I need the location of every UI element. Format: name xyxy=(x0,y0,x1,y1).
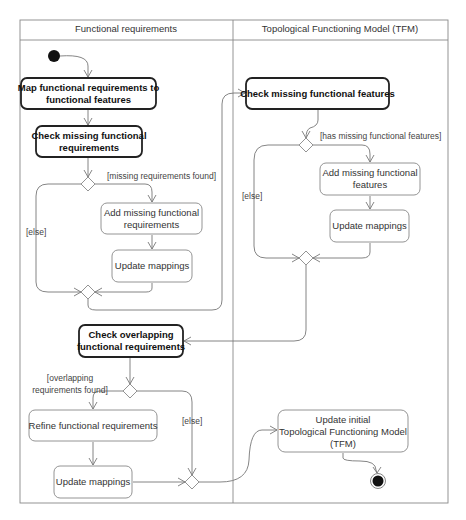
activity-final-node xyxy=(371,474,386,489)
action-add-missing-functional-features: Add missing functional features xyxy=(320,163,420,195)
svg-text:Add missing functional: Add missing functional xyxy=(104,207,199,218)
guard-else-3: [else] xyxy=(182,416,202,426)
svg-text:functional features: functional features xyxy=(46,94,131,105)
action-add-missing-functional-requirements: Add missing functional requirements xyxy=(101,203,202,234)
guard-overlapping-line1: [overlapping xyxy=(47,373,94,383)
guard-else-2: [else] xyxy=(242,191,262,201)
initial-node xyxy=(48,50,60,62)
activity-diagram: Functional requirements Topological Func… xyxy=(0,0,466,520)
svg-text:(TFM): (TFM) xyxy=(330,438,356,449)
svg-text:Check overlapping: Check overlapping xyxy=(89,329,174,340)
lane-title-functional-requirements: Functional requirements xyxy=(75,23,177,34)
svg-text:Update mappings: Update mappings xyxy=(332,220,407,231)
action-check-overlapping-functional-requirements: Check overlapping functional requirement… xyxy=(77,325,185,357)
guard-else-1: [else] xyxy=(26,227,46,237)
svg-text:Check missing functional feat: Check missing functional features xyxy=(240,88,395,99)
decision-node-overlapping xyxy=(123,384,137,398)
svg-text:features: features xyxy=(353,179,388,190)
action-map-functional-requirements: Map functional requirements to functiona… xyxy=(18,78,160,109)
action-update-mappings-1: Update mappings xyxy=(112,250,192,282)
svg-text:Map functional requirements to: Map functional requirements to xyxy=(18,82,160,93)
svg-text:Update initial: Update initial xyxy=(316,414,371,425)
svg-text:Check missing functional: Check missing functional xyxy=(31,130,146,141)
decision-node-missing-features xyxy=(299,138,313,152)
svg-text:Update mappings: Update mappings xyxy=(115,260,190,271)
action-update-mappings-2: Update mappings xyxy=(330,210,409,242)
guard-has-missing-functional-features: [has missing functional features] xyxy=(320,131,441,141)
svg-text:Topological Functioning Model: Topological Functioning Model xyxy=(279,426,407,437)
decision-node-missing-requirements xyxy=(81,177,95,191)
action-update-initial-tfm: Update initial Topological Functioning M… xyxy=(278,410,408,452)
action-refine-functional-requirements: Refine functional requirements xyxy=(29,410,158,441)
action-check-missing-functional-features: Check missing functional features xyxy=(240,78,395,109)
merge-node-overlapping xyxy=(185,475,199,489)
svg-text:functional requirements: functional requirements xyxy=(77,341,185,352)
guard-missing-requirements-found: [missing requirements found] xyxy=(107,171,216,181)
guard-overlapping-line2: requirements found] xyxy=(32,385,108,395)
merge-node-requirements xyxy=(81,285,95,299)
svg-text:requirements: requirements xyxy=(59,142,119,153)
action-update-mappings-3: Update mappings xyxy=(54,466,132,498)
action-check-missing-functional-requirements: Check missing functional requirements xyxy=(31,126,146,157)
svg-text:Update mappings: Update mappings xyxy=(56,476,131,487)
svg-text:Refine functional requirements: Refine functional requirements xyxy=(29,420,158,431)
svg-text:Add missing functional: Add missing functional xyxy=(322,167,417,178)
lane-title-tfm: Topological Functioning Model (TFM) xyxy=(262,23,418,34)
merge-node-features xyxy=(299,251,313,265)
svg-text:requirements: requirements xyxy=(124,219,180,230)
